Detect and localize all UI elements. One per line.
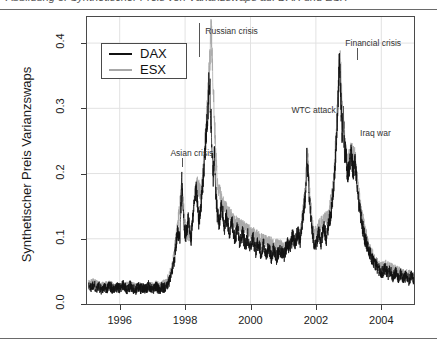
annotation-asian-crisis: Asian crisis [170, 148, 213, 158]
annotation-wtc-attack: WTC attack [291, 105, 335, 115]
legend-label: ESX [140, 62, 166, 77]
y-tick-label: 0.1 [54, 220, 66, 254]
annotation-leader-line [182, 158, 183, 167]
x-tick-label: 1996 [100, 314, 140, 326]
x-tick-mark [381, 305, 382, 310]
x-tick-label: 1998 [165, 314, 205, 326]
x-tick-mark [251, 305, 252, 310]
y-tick-label: 0.0 [54, 285, 66, 319]
x-tick-mark [316, 305, 317, 310]
y-tick-mark [81, 239, 86, 240]
legend-line-swatch [109, 53, 132, 55]
y-tick-mark [81, 304, 86, 305]
x-tick-mark [185, 305, 186, 310]
y-tick-mark [81, 43, 86, 44]
x-tick-label: 2000 [231, 314, 271, 326]
annotation-leader-line [343, 106, 344, 132]
legend-item-dax[interactable]: DAX [102, 46, 188, 62]
annotation-financial-crisis: Financial crisis [345, 38, 401, 48]
legend-label: DAX [140, 46, 167, 61]
legend-item-esx[interactable]: ESX [102, 62, 188, 78]
y-tick-mark [81, 174, 86, 175]
y-tick-mark [81, 108, 86, 109]
figure-caption-text: Abbildung 5: Synthetischer Preis von Var… [6, 0, 347, 3]
annotation-leader-line [357, 48, 358, 60]
bottom-horizontal-rule [0, 338, 437, 339]
x-tick-label: 2004 [361, 314, 401, 326]
legend-line-swatch [109, 69, 132, 71]
x-tick-mark [120, 305, 121, 310]
x-tick-label: 2002 [296, 314, 336, 326]
y-axis-title: Synthetischer Preis Varianzswaps [19, 35, 34, 295]
annotation-iraq-war: Iraq war [360, 128, 391, 138]
top-horizontal-rule [0, 9, 437, 10]
annotation-leader-line [199, 23, 200, 57]
figure-caption-strip: Abbildung 5: Synthetischer Preis von Var… [0, 0, 437, 9]
chart-legend: DAXESX [101, 43, 187, 79]
annotation-russian-crisis: Russian crisis [205, 26, 257, 36]
y-tick-label: 0.3 [54, 89, 66, 123]
y-tick-label: 0.2 [54, 155, 66, 189]
y-tick-label: 0.4 [54, 24, 66, 58]
